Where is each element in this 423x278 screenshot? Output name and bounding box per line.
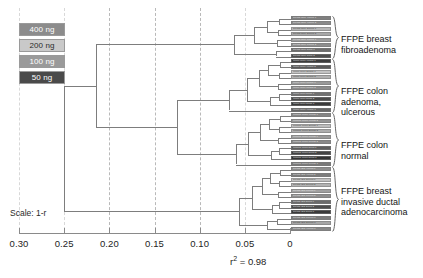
cluster-brace [332,59,339,113]
leaf-label: colon ulcer 200ng 1 [292,70,316,74]
leaf-row: normal colon 50ng 3 [291,156,331,160]
x-axis-tick-label: 0 [287,238,292,249]
tree-branch-vertical [252,186,253,209]
tree-branch-vertical [260,124,261,140]
tree-branch-horizontal [254,43,277,44]
x-axis-tick [109,228,110,233]
leaf-row: breast IDC 50ng 1 [291,200,331,204]
leaf-label: breast fibro 400ng 1 [292,16,316,20]
tree-branch-horizontal [279,127,291,128]
dose-legend: 400 ng200 ng100 ng50 ng [19,23,65,84]
tree-branch-horizontal [260,124,269,125]
tree-branch-vertical [267,221,268,229]
tree-branch-horizontal [268,65,280,66]
tree-branch-horizontal [279,73,291,74]
tree-branch-horizontal [252,209,272,210]
x-axis-tick-label: 0.30 [10,238,29,249]
tree-branch-horizontal [254,27,267,28]
leaf-label: normal colon 100ng 1 [292,135,318,139]
tree-branch-horizontal [236,165,291,166]
leaf-row: normal colon 100ng 1 [291,135,331,139]
leaf-row: colon ulcer 50ng 2 [291,97,331,101]
tree-branch-horizontal [278,192,291,193]
tree-branch-horizontal [279,78,291,79]
tree-branch-horizontal [272,213,291,214]
cluster-brace [332,167,339,232]
leaf-label: normal colon 50ng 2 [292,151,317,155]
tree-branch-horizontal [239,198,252,199]
leaf-label: breast IDC 200ng 3 [292,221,316,225]
tree-branch-horizontal [271,159,291,160]
leaf-label: breast IDC 400ng 2 [292,173,316,177]
tree-branch-horizontal [272,205,279,206]
cluster-label-ffpe-colon-normal: FFPE colon normal [341,140,388,161]
leaf-label: breast fibro 100ng 2 [292,43,316,47]
x-axis-tick [19,228,20,233]
leaf-label: breast fibro 400ng 2 [292,21,316,25]
tree-branch-horizontal [280,175,291,176]
leaf-row: breast fibro 200ng 1 [291,27,331,31]
leaf-row: normal colon 400ng 1 [291,113,331,117]
tree-branch-horizontal [270,97,279,98]
leaf-label: normal colon 400ng 1 [292,113,318,117]
leaf-label: normal colon 50ng 3 [292,156,317,160]
leaf-row: normal colon 50ng 1 [291,146,331,150]
leaf-label: breast fibro 50ng 2 [292,54,315,58]
tree-branch-horizontal [278,30,291,31]
leaf-row: breast fibro 400ng 2 [291,21,331,25]
leaf-row: colon ulcer 200ng 1 [291,70,331,74]
tree-branch-horizontal [64,86,96,87]
tree-branch-vertical [271,151,272,159]
tree-branch-horizontal [279,94,291,95]
tree-branch-horizontal [276,57,291,58]
legend-item-200-ng: 200 ng [19,39,65,52]
tree-branch-horizontal [279,208,291,209]
cluster-label-ffpe-breast-invasive-ductal-adenocarcinoma: FFPE breast invasive ductal adenocarcino… [341,186,408,218]
leaf-row: breast IDC 200ng 3 [291,221,331,225]
tree-branch-horizontal [278,197,291,198]
leaf-row: breast fibro 50ng 1 [291,48,331,52]
leaf-row: colon ulcer 400ng 2 [291,65,331,69]
tree-branch-horizontal [279,186,291,187]
tree-branch-vertical [247,78,248,101]
leaf-row: normal colon 100ng 2 [291,140,331,144]
leaf-label: breast fibro 200ng 1 [292,27,316,31]
leaf-label: colon ulcer 100ng 1 [292,81,316,85]
tree-branch-vertical [236,144,237,165]
leaf-label: breast IDC 50ng 3 [292,210,314,214]
cluster-brace [332,113,339,167]
leaf-row: normal colon 50ng 2 [291,151,331,155]
x-axis-tick-label: 0.10 [190,238,209,249]
tree-branch-horizontal [270,173,280,174]
leaf-label: breast IDC 100ng 2 [292,194,316,198]
leaf-row: breast IDC 100ng 3 [291,216,331,220]
leaf-label: breast fibro 50ng 1 [292,48,315,52]
tree-branch-vertical [254,27,255,43]
tree-branch-horizontal [177,154,236,155]
leaf-label: normal colon 50ng 1 [292,146,317,150]
tree-branch-horizontal [248,132,260,133]
x-axis-tick [64,228,65,233]
legend-item-50-ng: 50 ng [19,71,65,84]
leaf-row: normal colon 400ng 2 [291,119,331,123]
leaf-row: colon ulcer 50ng 3 [291,102,331,106]
tree-branch-horizontal [269,129,279,130]
leaf-label: normal colon 100ng 2 [292,140,318,144]
leaf-label: colon ulcer 200ng 2 [292,75,316,79]
leaf-label: colon ulcer 50ng 2 [292,97,314,101]
tree-branch-horizontal [229,90,247,91]
leaf-label: normal colon 400ng 2 [292,119,318,123]
leaf-label: normal colon 200ng 1 [292,124,318,128]
tree-branch-vertical [64,86,65,212]
tree-branch-horizontal [279,181,291,182]
tree-branch-vertical [177,100,178,154]
leaf-label: breast IDC 400ng 1 [292,167,316,171]
tree-branch-horizontal [234,35,254,36]
x-axis-tick-label: 0.05 [235,238,254,249]
x-axis-line [19,233,291,234]
tree-branch-horizontal [268,75,279,76]
tree-branch-horizontal [277,40,291,41]
leaf-label: breast IDC 50ng 2 [292,205,314,209]
x-axis-tick [200,228,201,233]
tree-branch-horizontal [279,132,291,133]
